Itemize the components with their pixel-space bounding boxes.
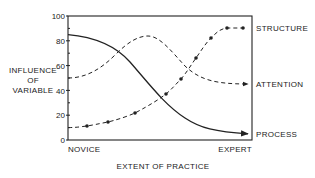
x-axis-label: EXTENT OF PRACTICE bbox=[117, 162, 210, 171]
svg-text:OF: OF bbox=[27, 76, 39, 85]
y-tick-60: 60 bbox=[56, 62, 65, 71]
series-structure-markers bbox=[85, 26, 245, 128]
y-tick-0: 0 bbox=[61, 136, 66, 145]
series-process-line bbox=[68, 35, 248, 134]
y-tick-100: 100 bbox=[52, 12, 66, 21]
series-attention-line bbox=[68, 36, 248, 84]
series-label-structure: STRUCTURE bbox=[256, 24, 308, 33]
series-label-attention: ATTENTION bbox=[256, 80, 303, 89]
svg-text:VARIABLE: VARIABLE bbox=[13, 86, 54, 95]
x-tick-expert: EXPERT bbox=[218, 145, 252, 154]
chart: 0 20 40 60 80 100 INFLUENCE OF VARIABLE … bbox=[0, 0, 315, 178]
y-axis-label: INFLUENCE OF VARIABLE bbox=[9, 66, 57, 95]
y-tick-80: 80 bbox=[56, 37, 65, 46]
x-tick-novice: NOVICE bbox=[68, 145, 100, 154]
series-label-process: PROCESS bbox=[256, 130, 297, 139]
y-tick-40: 40 bbox=[56, 87, 65, 96]
svg-text:INFLUENCE: INFLUENCE bbox=[9, 66, 57, 75]
plot-frame bbox=[68, 16, 252, 140]
series-structure-line bbox=[68, 28, 243, 128]
y-tick-20: 20 bbox=[56, 111, 65, 120]
